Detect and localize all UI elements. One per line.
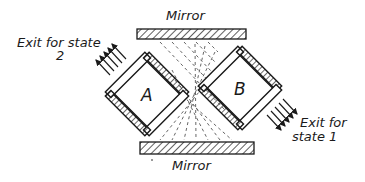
- mirror-top: [137, 29, 246, 39]
- exit-state-1-label-line2: state 1: [292, 130, 337, 143]
- diagram-canvas: A B: [0, 0, 365, 182]
- mirror-top-label: Mirror: [166, 9, 205, 22]
- prism-a-label: A: [140, 85, 153, 105]
- prism-b-label: B: [234, 79, 246, 99]
- stray-dot: [151, 159, 153, 161]
- mirror-bottom: [140, 142, 254, 154]
- mirror-bottom-label: Mirror: [172, 159, 211, 172]
- exit-state-2-label-line2: 2: [56, 49, 64, 62]
- exit-state-1-label-line1: Exit for: [300, 116, 347, 129]
- exit-arrows-state-1: [267, 99, 297, 130]
